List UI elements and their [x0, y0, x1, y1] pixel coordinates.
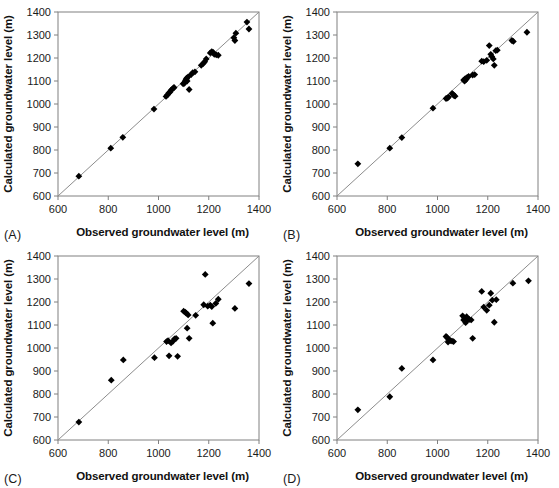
x-tick-label: 600 [49, 447, 67, 459]
x-tick-label: 800 [99, 447, 117, 459]
y-tick-label: 1100 [27, 319, 51, 331]
x-axis-title: Observed groundwater level (m) [355, 470, 528, 482]
y-tick-label: 600 [312, 434, 330, 446]
data-point [231, 305, 238, 312]
y-tick-label: 1200 [306, 52, 330, 64]
y-tick-label: 800 [33, 388, 51, 400]
y-tick-label: 700 [312, 411, 330, 423]
y-tick-label: 600 [312, 190, 330, 202]
data-point [491, 319, 498, 326]
x-tick-label: 1400 [247, 447, 271, 459]
data-point [398, 134, 405, 141]
data-point [186, 86, 193, 93]
data-point [430, 357, 437, 364]
data-point [486, 42, 493, 49]
data-point [246, 26, 253, 33]
one-to-one-reference-line [337, 256, 538, 440]
x-tick-label: 600 [49, 203, 67, 215]
data-point [166, 352, 173, 359]
data-point [120, 357, 127, 364]
y-tick-label: 600 [33, 434, 51, 446]
y-tick-label: 1000 [306, 342, 330, 354]
data-point [354, 406, 361, 413]
y-tick-label: 700 [33, 167, 51, 179]
data-point [398, 365, 405, 372]
one-to-one-reference-line [58, 12, 259, 196]
data-point [524, 29, 531, 36]
plot-area-d: 6007008009001000110012001300140060080010… [279, 244, 558, 488]
data-point [354, 160, 361, 167]
panel-label-a: (A) [4, 228, 21, 242]
x-tick-label: 1400 [526, 447, 550, 459]
y-tick-label: 800 [312, 144, 330, 156]
y-tick-label: 700 [312, 167, 330, 179]
data-point [151, 106, 158, 113]
y-tick-label: 900 [33, 121, 51, 133]
four-panel-scatter-figure: 6007008009001000110012001300140060080010… [0, 0, 559, 488]
x-axis-title: Observed groundwater level (m) [76, 470, 249, 482]
x-tick-label: 1000 [425, 203, 449, 215]
y-tick-label: 1100 [306, 75, 330, 87]
x-tick-label: 600 [328, 447, 346, 459]
data-point [478, 288, 485, 295]
plot-area-c: 6007008009001000110012001300140060080010… [0, 244, 279, 488]
y-axis-title: Calculated groundwater level (m) [2, 15, 14, 193]
plot-area-a: 6007008009001000110012001300140060080010… [0, 0, 279, 244]
data-point [108, 377, 115, 384]
y-tick-label: 1200 [27, 296, 51, 308]
y-tick-label: 1200 [306, 296, 330, 308]
data-point [244, 19, 251, 26]
data-point [151, 354, 158, 361]
one-to-one-reference-line [58, 256, 259, 440]
scatter-panel-a: 6007008009001000110012001300140060080010… [0, 0, 279, 244]
x-axis-title: Observed groundwater level (m) [76, 226, 249, 238]
x-tick-label: 1200 [476, 203, 500, 215]
scatter-panel-d: 6007008009001000110012001300140060080010… [279, 244, 559, 488]
y-tick-label: 900 [33, 365, 51, 377]
x-tick-label: 1200 [197, 203, 221, 215]
panel-label-b: (B) [283, 228, 300, 242]
x-tick-label: 1000 [425, 447, 449, 459]
y-tick-label: 1300 [27, 29, 51, 41]
data-point [209, 320, 216, 327]
x-tick-label: 1000 [146, 447, 170, 459]
data-point [184, 325, 191, 332]
data-point [469, 335, 476, 342]
data-point [493, 296, 500, 303]
scatter-panel-c: 6007008009001000110012001300140060080010… [0, 244, 279, 488]
y-tick-label: 1000 [306, 98, 330, 110]
data-point [525, 277, 532, 284]
y-tick-label: 1100 [306, 319, 330, 331]
x-tick-label: 1200 [476, 447, 500, 459]
y-tick-label: 1400 [27, 250, 51, 262]
panel-label-c: (C) [4, 472, 22, 486]
y-axis-title: Calculated groundwater level (m) [2, 259, 14, 437]
y-tick-label: 800 [312, 388, 330, 400]
scatter-panel-b: 6007008009001000110012001300140060080010… [279, 0, 559, 244]
y-tick-label: 1300 [306, 29, 330, 41]
data-point [246, 280, 253, 287]
y-tick-label: 700 [33, 411, 51, 423]
y-tick-label: 1400 [306, 250, 330, 262]
y-tick-label: 1300 [306, 273, 330, 285]
y-tick-label: 1100 [27, 75, 51, 87]
data-point [202, 271, 209, 278]
y-tick-label: 800 [33, 144, 51, 156]
x-axis-title: Observed groundwater level (m) [355, 226, 528, 238]
y-tick-label: 1400 [27, 6, 51, 18]
x-tick-label: 1000 [146, 203, 170, 215]
y-tick-label: 1400 [306, 6, 330, 18]
data-point-group [354, 29, 530, 167]
y-tick-label: 1300 [27, 273, 51, 285]
data-point [75, 419, 82, 426]
x-tick-label: 800 [378, 203, 396, 215]
x-tick-label: 800 [378, 447, 396, 459]
data-point-group [354, 277, 531, 413]
data-point [186, 335, 193, 342]
panel-label-d: (D) [283, 472, 301, 486]
y-tick-label: 1200 [27, 52, 51, 64]
x-tick-label: 600 [328, 203, 346, 215]
y-tick-label: 900 [312, 121, 330, 133]
one-to-one-reference-line [337, 12, 538, 196]
x-tick-label: 1400 [247, 203, 271, 215]
